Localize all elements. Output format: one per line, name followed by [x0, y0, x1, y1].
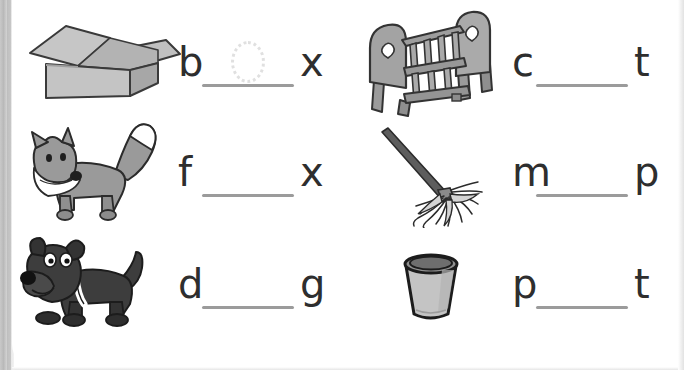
last-letter: g — [300, 264, 325, 304]
first-letter: c — [512, 42, 534, 82]
answer-blank[interactable] — [202, 306, 294, 309]
fox-illustration — [18, 118, 188, 228]
mop-illustration — [352, 118, 522, 228]
answer-blank[interactable] — [536, 84, 628, 87]
answer-blank[interactable] — [202, 194, 294, 197]
cot-prompt: c t — [510, 8, 684, 118]
mop-prompt: m p — [510, 118, 684, 228]
item-cot: c t — [352, 8, 672, 118]
item-dog: d g — [18, 230, 348, 340]
first-letter: p — [512, 264, 537, 304]
worksheet-row-3: d g p — [0, 230, 684, 340]
first-letter: d — [178, 264, 203, 304]
dog-illustration — [18, 230, 188, 340]
worksheet-row-2: f x — [0, 118, 684, 228]
first-letter: f — [178, 152, 192, 192]
dog-prompt: d g — [176, 230, 351, 340]
first-letter: b — [178, 42, 203, 82]
item-fox: f x — [18, 118, 348, 228]
pot-illustration — [352, 230, 522, 340]
item-box: b x — [18, 8, 348, 118]
last-letter: t — [634, 264, 650, 304]
pot-prompt: p t — [510, 230, 684, 340]
box-illustration — [18, 8, 188, 118]
answer-blank[interactable] — [536, 194, 628, 197]
cot-illustration — [352, 8, 522, 118]
worksheet-page: b x — [0, 0, 684, 370]
box-prompt: b x — [176, 8, 351, 118]
item-pot: p t — [352, 230, 672, 340]
answer-blank[interactable] — [536, 306, 628, 309]
answer-blank[interactable] — [202, 84, 294, 87]
last-letter: p — [634, 152, 659, 192]
fox-prompt: f x — [176, 118, 351, 228]
last-letter: x — [300, 152, 324, 192]
trace-hint-o — [231, 41, 265, 83]
item-mop: m p — [352, 118, 672, 228]
first-letter: m — [512, 152, 551, 192]
worksheet-row-1: b x — [0, 8, 684, 118]
last-letter: x — [300, 42, 324, 82]
last-letter: t — [634, 42, 650, 82]
